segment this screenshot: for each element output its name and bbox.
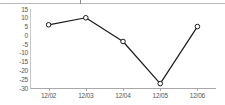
x-tick-mark bbox=[86, 89, 87, 91]
y-tick-label: 15 bbox=[2, 6, 28, 13]
y-tick-label: -10 bbox=[2, 49, 28, 56]
x-tick-label: 12/06 bbox=[177, 92, 217, 100]
data-point-marker bbox=[46, 23, 51, 28]
data-point-marker bbox=[158, 81, 163, 86]
y-tick-label: 0 bbox=[2, 32, 28, 39]
line-chart: 151050-5-10-15-20-25-30 12/0212/0312/041… bbox=[0, 0, 225, 105]
y-tick-label: 5 bbox=[2, 23, 28, 30]
x-tick-label: 12/05 bbox=[140, 92, 180, 100]
x-tick-mark bbox=[197, 89, 198, 91]
data-point-marker bbox=[121, 39, 126, 44]
y-tick-label: -20 bbox=[2, 67, 28, 74]
x-tick-label: 12/03 bbox=[66, 92, 106, 100]
y-axis-line bbox=[30, 9, 31, 89]
y-tick-label: -5 bbox=[2, 41, 28, 48]
y-tick-label: -30 bbox=[2, 85, 28, 92]
top-divider-rule bbox=[0, 3, 225, 4]
data-point-marker bbox=[195, 24, 200, 29]
x-tick-mark bbox=[49, 89, 50, 91]
x-tick-label: 12/02 bbox=[29, 92, 69, 100]
series-line bbox=[30, 9, 216, 88]
series-markers bbox=[46, 15, 199, 85]
y-tick-label: -25 bbox=[2, 76, 28, 83]
y-tick-label: -15 bbox=[2, 58, 28, 65]
top-rule-tick-icon bbox=[80, 0, 81, 4]
series-polyline bbox=[49, 18, 198, 84]
data-point-marker bbox=[84, 15, 89, 20]
plot-area bbox=[30, 9, 216, 88]
x-tick-mark bbox=[123, 89, 124, 91]
x-tick-mark bbox=[160, 89, 161, 91]
y-tick-label: 10 bbox=[2, 14, 28, 21]
x-tick-label: 12/04 bbox=[103, 92, 143, 100]
